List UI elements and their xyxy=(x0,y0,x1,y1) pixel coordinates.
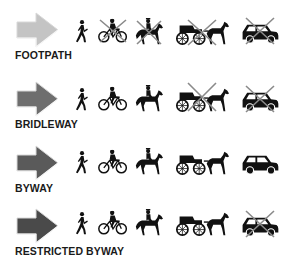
walker-icon xyxy=(74,210,90,236)
arrow-icon xyxy=(14,81,60,117)
horse-carriage-icon xyxy=(174,209,230,237)
row-label: BRIDLEWAY xyxy=(15,118,78,130)
horse-carriage-icon xyxy=(174,148,230,176)
row-label: RESTRICTED BYWAY xyxy=(15,245,124,257)
cyclist-icon xyxy=(98,149,128,175)
motor-vehicle-icon xyxy=(240,90,280,112)
horse-rider-icon xyxy=(134,18,164,46)
row-label: FOOTPATH xyxy=(15,49,72,61)
prohibited-cross-icon xyxy=(137,21,161,44)
prohibited-cross-icon xyxy=(246,211,274,237)
prohibited-cross-icon xyxy=(100,20,126,42)
prohibited-cross-icon xyxy=(188,83,216,111)
arrow-icon xyxy=(14,145,60,181)
horse-carriage-icon xyxy=(174,18,230,46)
cyclist-icon xyxy=(98,86,128,112)
legend-row-restricted-byway: RESTRICTED BYWAY xyxy=(0,208,284,269)
row-label: BYWAY xyxy=(15,182,53,194)
horse-carriage-icon xyxy=(174,85,230,113)
walker-icon xyxy=(74,149,90,175)
cyclist-icon xyxy=(98,210,128,236)
motor-vehicle-icon xyxy=(240,215,280,237)
prohibited-cross-icon xyxy=(188,20,216,45)
walker-icon xyxy=(74,86,90,112)
horse-rider-icon xyxy=(134,148,164,176)
motor-vehicle-icon xyxy=(240,22,280,44)
horse-rider-icon xyxy=(134,209,164,237)
prohibited-cross-icon xyxy=(246,86,274,112)
arrow-icon xyxy=(14,12,60,48)
motor-vehicle-icon xyxy=(240,153,280,175)
walker-icon xyxy=(74,18,90,44)
prohibited-cross-icon xyxy=(246,18,274,44)
legend-row-byway: BYWAY xyxy=(0,145,284,211)
cyclist-icon xyxy=(98,18,128,44)
legend-row-footpath: FOOTPATH xyxy=(0,12,284,78)
arrow-icon xyxy=(14,208,60,244)
horse-rider-icon xyxy=(134,85,164,113)
legend-row-bridleway: BRIDLEWAY xyxy=(0,81,284,147)
